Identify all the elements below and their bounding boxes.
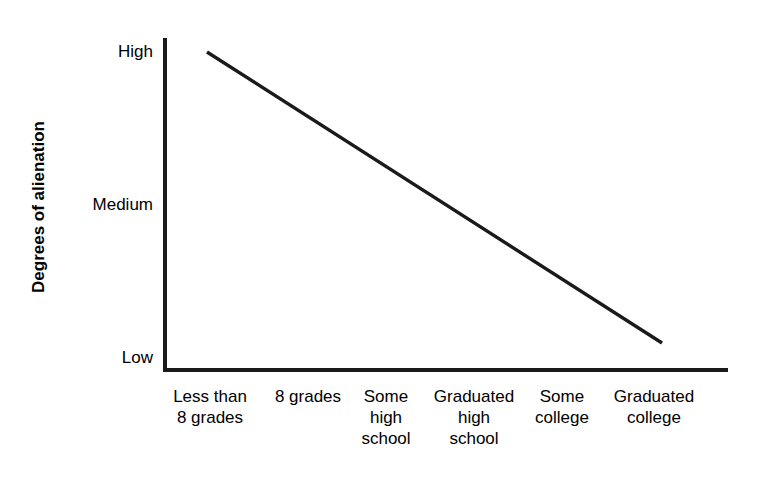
x-axis-label-graduated-college: Graduated college: [600, 386, 708, 428]
x-axis-label-some-college: Some college: [520, 386, 604, 428]
alienation-trend-line: [207, 52, 662, 343]
x-axis-label-less-than-8-grades: Less than 8 grades: [156, 386, 264, 428]
trend-line-svg: [163, 30, 728, 370]
chart-figure: Degrees of alienation High Medium Low Le…: [0, 0, 763, 477]
plot-area: [163, 30, 728, 370]
y-axis-tick-label-low: Low: [58, 347, 153, 369]
x-axis-label-8-grades: 8 grades: [262, 386, 354, 407]
y-axis-tick-low: Low: [58, 347, 153, 369]
x-axis-labels: Less than 8 grades 8 grades Some high sc…: [0, 386, 763, 466]
x-axis-label-graduated-high-school: Graduated high school: [424, 386, 524, 449]
y-axis-tick-medium: Medium: [58, 194, 153, 216]
y-axis-tick-high: High: [58, 41, 153, 63]
y-axis-tick-label-high: High: [58, 41, 153, 63]
y-axis-title: Degrees of alienation: [15, 37, 63, 377]
x-axis-label-some-high-school: Some high school: [346, 386, 426, 449]
y-axis-tick-label-medium: Medium: [58, 194, 153, 216]
